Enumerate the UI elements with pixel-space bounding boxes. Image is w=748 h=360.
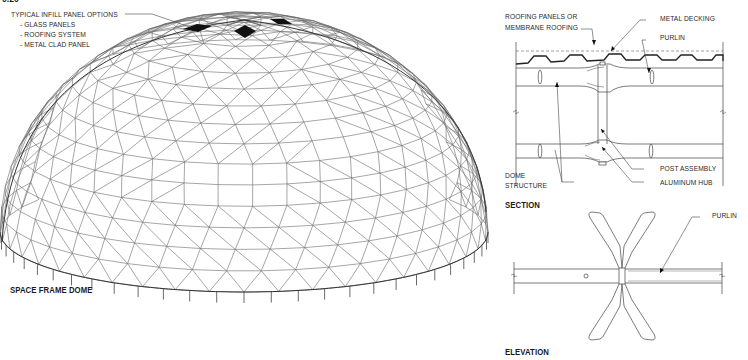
section-arrowheads xyxy=(555,40,651,151)
elevation-title: ELEVATION xyxy=(505,347,549,357)
dome-title: SPACE FRAME DOME xyxy=(10,285,93,295)
infill-option-metal: - METAL CLAD PANEL xyxy=(20,40,90,50)
label-dome-structure-2: STRUCTURE xyxy=(505,181,547,191)
figure-number-clipped: 0.20 xyxy=(2,0,19,4)
label-aluminum-hub: ALUMINUM HUB xyxy=(660,178,713,188)
drawing-canvas xyxy=(0,0,748,360)
label-purlin-elevation: PURLIN xyxy=(712,211,737,221)
label-dome-structure-1: DOME xyxy=(505,171,525,181)
metal-decking xyxy=(516,54,723,64)
infill-option-glass: - GLASS PANELS xyxy=(20,20,75,30)
label-purlin-section: PURLIN xyxy=(660,33,685,43)
label-post-assembly: POST ASSEMBLY xyxy=(660,164,716,174)
infill-option-roofing: - ROOFING SYSTEM xyxy=(20,30,86,40)
section-title: SECTION xyxy=(505,200,540,210)
elevation-drawing xyxy=(511,212,725,340)
label-roofing-2: MEMBRANE ROOFING xyxy=(505,23,578,33)
label-roofing-1: ROOFING PANELS OR xyxy=(505,12,577,22)
infill-callout-heading: TYPICAL INFILL PANEL OPTIONS xyxy=(11,10,118,20)
space-frame-dome xyxy=(0,12,488,292)
elevation-leaders xyxy=(660,217,700,273)
label-metal-decking: METAL DECKING xyxy=(660,14,715,24)
